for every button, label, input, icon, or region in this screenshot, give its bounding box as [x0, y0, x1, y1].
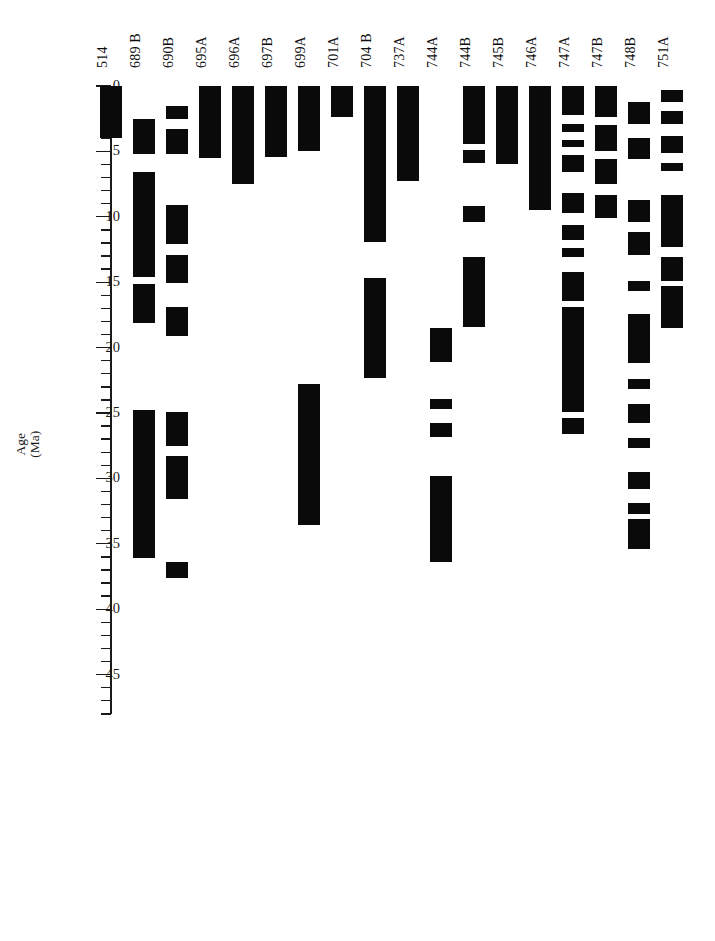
- recovery-interval-bar[interactable]: [628, 314, 650, 364]
- site-column[interactable]: 737A: [397, 0, 419, 941]
- site-column[interactable]: 744A: [430, 0, 452, 941]
- recovery-interval-bar[interactable]: [430, 328, 452, 362]
- recovery-interval-bar[interactable]: [661, 286, 683, 328]
- recovery-interval-bar[interactable]: [430, 399, 452, 409]
- recovery-interval-bar[interactable]: [463, 206, 485, 222]
- site-column[interactable]: 747A: [562, 0, 584, 941]
- recovery-interval-bar[interactable]: [628, 438, 650, 448]
- recovery-interval-bar[interactable]: [463, 257, 485, 326]
- site-label-container: 747B: [595, 0, 617, 76]
- recovery-interval-bar[interactable]: [166, 106, 188, 119]
- site-column[interactable]: 748B: [628, 0, 650, 941]
- site-label-container: 745B: [496, 0, 518, 76]
- recovery-interval-bar[interactable]: [166, 205, 188, 244]
- site-label: 701A: [326, 36, 342, 68]
- site-column[interactable]: 697B: [265, 0, 287, 941]
- site-label: 695A: [194, 36, 210, 68]
- recovery-interval-bar[interactable]: [166, 255, 188, 284]
- recovery-interval-bar[interactable]: [199, 86, 221, 158]
- site-label-container: 744B: [463, 0, 485, 76]
- site-label: 704 B: [359, 33, 375, 68]
- recovery-interval-bar[interactable]: [166, 307, 188, 336]
- site-column[interactable]: 514: [100, 0, 122, 941]
- recovery-interval-bar[interactable]: [628, 102, 650, 124]
- recovery-interval-bar[interactable]: [595, 159, 617, 184]
- recovery-interval-bar[interactable]: [100, 86, 122, 138]
- recovery-interval-bar[interactable]: [661, 136, 683, 153]
- site-label-container: 704 B: [364, 0, 386, 76]
- recovery-interval-bar[interactable]: [463, 86, 485, 144]
- recovery-interval-bar[interactable]: [166, 456, 188, 499]
- site-column[interactable]: 746A: [529, 0, 551, 941]
- site-label-container: 751A: [661, 0, 683, 76]
- recovery-interval-bar[interactable]: [133, 284, 155, 323]
- site-column[interactable]: 701A: [331, 0, 353, 941]
- recovery-interval-bar[interactable]: [166, 412, 188, 446]
- site-column[interactable]: 704 B: [364, 0, 386, 941]
- recovery-interval-bar[interactable]: [166, 129, 188, 154]
- recovery-interval-bar[interactable]: [661, 111, 683, 124]
- recovery-interval-bar[interactable]: [628, 138, 650, 159]
- site-column[interactable]: 745B: [496, 0, 518, 941]
- recovery-interval-bar[interactable]: [232, 86, 254, 184]
- site-label-container: 697B: [265, 0, 287, 76]
- recovery-interval-bar[interactable]: [562, 272, 584, 301]
- recovery-interval-bar[interactable]: [562, 225, 584, 241]
- recovery-interval-bar[interactable]: [628, 200, 650, 222]
- site-column[interactable]: 696A: [232, 0, 254, 941]
- recovery-interval-bar[interactable]: [265, 86, 287, 157]
- site-column[interactable]: 695A: [199, 0, 221, 941]
- recovery-interval-bar[interactable]: [661, 195, 683, 247]
- site-column[interactable]: 689 B: [133, 0, 155, 941]
- site-column[interactable]: 751A: [661, 0, 683, 941]
- site-label: 751A: [656, 36, 672, 68]
- site-label: 747B: [590, 37, 606, 68]
- recovery-interval-bar[interactable]: [562, 140, 584, 148]
- recovery-interval-bar[interactable]: [562, 193, 584, 213]
- site-column[interactable]: 699A: [298, 0, 320, 941]
- recovery-interval-bar[interactable]: [562, 248, 584, 257]
- site-column[interactable]: 690B: [166, 0, 188, 941]
- recovery-interval-bar[interactable]: [298, 86, 320, 151]
- site-label-container: 695A: [199, 0, 221, 76]
- recovery-interval-bar[interactable]: [496, 86, 518, 164]
- recovery-interval-bar[interactable]: [595, 195, 617, 219]
- recovery-interval-bar[interactable]: [628, 472, 650, 489]
- recovery-interval-bar[interactable]: [661, 163, 683, 171]
- recovery-interval-bar[interactable]: [430, 476, 452, 562]
- recovery-interval-bar[interactable]: [595, 125, 617, 151]
- site-label-container: 748B: [628, 0, 650, 76]
- recovery-interval-bar[interactable]: [364, 86, 386, 242]
- recovery-interval-bar[interactable]: [628, 232, 650, 254]
- recovery-interval-bar[interactable]: [661, 257, 683, 281]
- recovery-interval-bar[interactable]: [562, 307, 584, 412]
- recovery-interval-bar[interactable]: [463, 150, 485, 163]
- site-label: 690B: [161, 37, 177, 68]
- recovery-interval-bar[interactable]: [628, 404, 650, 424]
- recovery-interval-bar[interactable]: [628, 379, 650, 389]
- recovery-interval-bar[interactable]: [628, 519, 650, 549]
- site-column[interactable]: 744B: [463, 0, 485, 941]
- recovery-interval-bar[interactable]: [133, 119, 155, 154]
- recovery-interval-bar[interactable]: [529, 86, 551, 210]
- recovery-interval-bar[interactable]: [562, 155, 584, 172]
- recovery-interval-bar[interactable]: [298, 384, 320, 525]
- recovery-interval-bar[interactable]: [364, 278, 386, 377]
- recovery-interval-bar[interactable]: [166, 562, 188, 578]
- recovery-interval-bar[interactable]: [562, 124, 584, 132]
- recovery-interval-bar[interactable]: [133, 410, 155, 558]
- site-column[interactable]: 747B: [595, 0, 617, 941]
- recovery-interval-bar[interactable]: [397, 86, 419, 181]
- recovery-interval-bar[interactable]: [661, 90, 683, 102]
- site-label-container: 737A: [397, 0, 419, 76]
- recovery-interval-bar[interactable]: [595, 86, 617, 117]
- recovery-interval-bar[interactable]: [628, 281, 650, 291]
- recovery-interval-bar[interactable]: [562, 418, 584, 434]
- site-label: 689 B: [128, 33, 144, 68]
- recovery-interval-bar[interactable]: [430, 423, 452, 436]
- recovery-interval-bar[interactable]: [562, 86, 584, 115]
- recovery-interval-bar[interactable]: [133, 172, 155, 277]
- recovery-interval-bar[interactable]: [331, 86, 353, 117]
- recovery-interval-bar[interactable]: [628, 503, 650, 513]
- plot-area: 514689 B690B695A696A697B699A701A704 B737…: [0, 0, 715, 941]
